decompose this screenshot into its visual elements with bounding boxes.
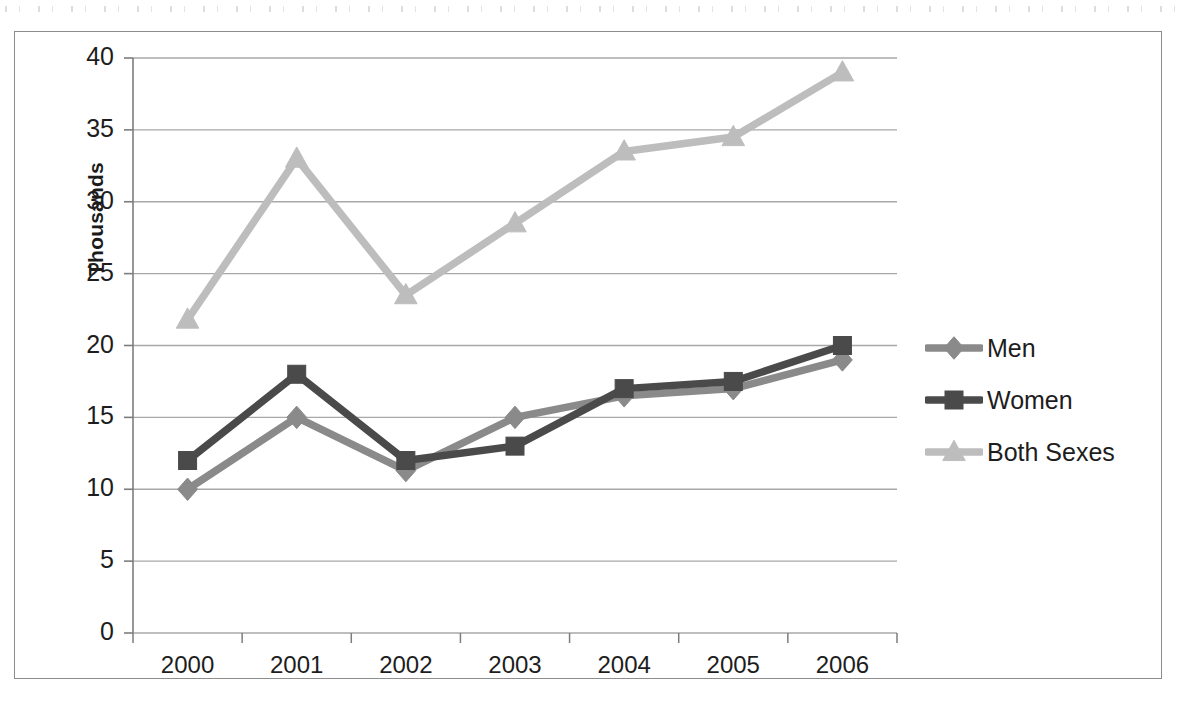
y-tick-label: 40 [60,42,114,71]
series-line [188,72,843,319]
scan-artifact [0,6,1177,12]
data-point-marker [831,61,854,81]
y-tick-label: 25 [60,258,114,287]
y-tick-label: 35 [60,114,114,143]
y-tick-label: 5 [60,545,114,574]
x-tick-label: 2006 [782,651,902,679]
y-tick-label: 20 [60,330,114,359]
chart-frame: Thousands 0510152025303540 2000200120022… [14,31,1162,679]
data-point-marker [397,452,415,470]
legend-marker-diamond-icon [925,335,983,361]
x-tick-label: 2005 [673,651,793,679]
x-tick-label: 2003 [455,651,575,679]
y-tick-label: 30 [60,186,114,215]
data-point-marker [505,406,525,429]
x-tick-label: 2004 [564,651,684,679]
series-men [178,349,853,501]
data-point-marker [724,372,742,390]
data-series-layer [176,61,853,501]
legend-label: Men [987,334,1036,363]
series-women [179,337,852,470]
data-point-marker [615,380,633,398]
y-tick-label: 10 [60,473,114,502]
x-tick-label: 2001 [237,651,357,679]
y-tick-marks [124,58,133,633]
data-point-marker [179,452,197,470]
legend-label: Women [987,386,1073,415]
y-tick-label: 15 [60,401,114,430]
x-tick-marks [133,633,897,643]
data-point-marker [833,337,851,355]
data-point-marker [285,147,308,167]
data-point-marker [506,437,524,455]
x-tick-label: 2000 [128,651,248,679]
data-point-marker [288,365,306,383]
legend-item-women: Women [925,374,1155,426]
legend-marker-square-icon [925,387,983,413]
legend-item-men: Men [925,322,1155,374]
legend-item-both-sexes: Both Sexes [925,426,1155,478]
series-both-sexes [176,61,853,329]
x-tick-label: 2002 [346,651,466,679]
chart-legend: MenWomenBoth Sexes [925,322,1155,478]
gridlines [133,58,897,633]
y-tick-label: 0 [60,617,114,646]
legend-label: Both Sexes [987,438,1115,467]
legend-marker-triangle-icon [925,439,983,465]
